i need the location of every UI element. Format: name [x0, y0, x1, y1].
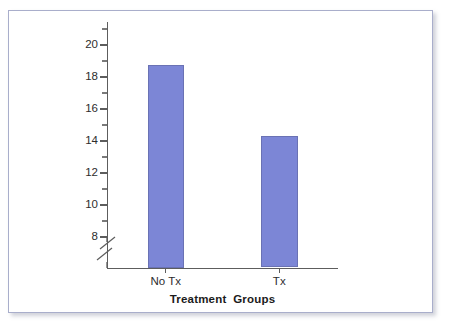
bar-chart-plot-area: 2018161412108 No TxTx Treatment Groups — [0, 0, 450, 331]
y-axis-tick-label-wrap: 16 — [60, 103, 98, 115]
y-axis-minor-tick — [102, 124, 107, 125]
y-axis-tick — [100, 108, 107, 109]
y-axis-tick — [100, 140, 107, 141]
y-axis-tick-label: 20 — [64, 39, 98, 51]
y-axis-tick-label-wrap: 18 — [60, 71, 98, 83]
axis-break-icon — [96, 236, 120, 268]
bar-no-tx — [148, 65, 185, 268]
y-axis-minor-tick — [102, 92, 107, 93]
x-axis-category-label: No Tx — [126, 275, 206, 288]
x-axis-tick — [165, 268, 166, 273]
y-axis-tick-label-wrap: 20 — [60, 39, 98, 51]
y-axis-minor-tick — [102, 60, 107, 61]
y-axis-tick-label: 12 — [64, 167, 98, 179]
y-axis-line — [107, 22, 108, 268]
y-axis-minor-tick — [102, 28, 107, 29]
y-axis-tick — [100, 204, 107, 205]
figure-root: 2018161412108 No TxTx Treatment Groups — [0, 0, 450, 331]
x-axis-tick — [279, 268, 280, 273]
y-axis-tick — [100, 44, 107, 45]
y-axis-tick-label: 16 — [64, 103, 98, 115]
y-axis-minor-tick — [102, 188, 107, 189]
y-axis-tick — [100, 172, 107, 173]
y-axis-tick-label: 18 — [64, 71, 98, 83]
y-axis-tick — [100, 76, 107, 77]
y-axis-tick-label-wrap: 12 — [60, 167, 98, 179]
y-axis-tick-label-wrap: 8 — [60, 231, 98, 243]
x-axis-category-label: Tx — [239, 275, 319, 288]
y-axis-tick-label-wrap: 10 — [60, 199, 98, 211]
bar-tx — [261, 136, 298, 267]
y-axis-minor-tick — [102, 156, 107, 157]
x-axis-line — [107, 268, 338, 269]
y-axis-tick-label: 8 — [64, 231, 98, 243]
y-axis-minor-tick — [102, 220, 107, 221]
y-axis-tick-label: 10 — [64, 199, 98, 211]
x-axis-title: Treatment Groups — [107, 293, 338, 305]
y-axis-tick-label-wrap: 14 — [60, 135, 98, 147]
y-axis-tick-label: 14 — [64, 135, 98, 147]
